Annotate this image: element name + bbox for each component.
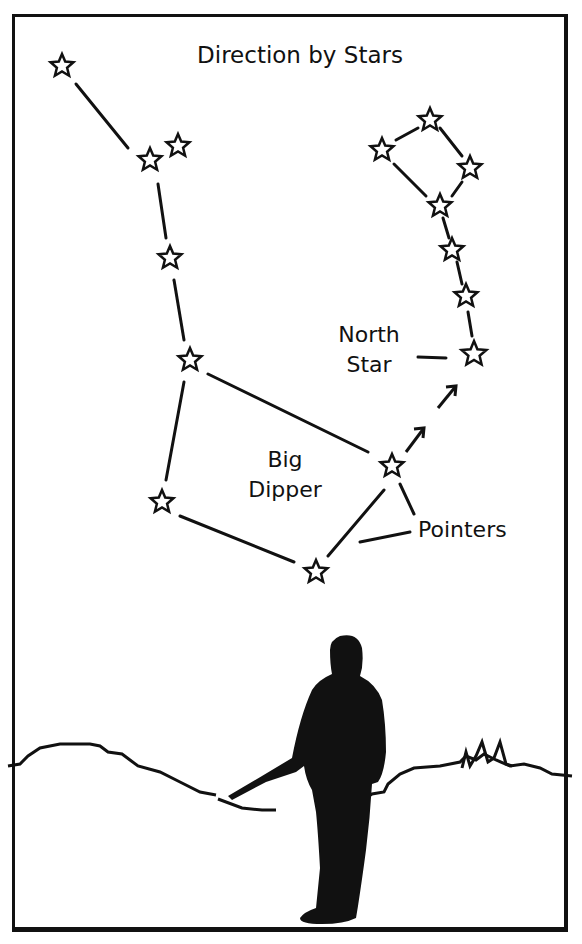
star-chart [0, 0, 582, 944]
constellation-lines [76, 84, 472, 562]
big-dipper-line [166, 382, 184, 480]
big-dipper-line [76, 84, 128, 148]
little-dipper-line [452, 182, 462, 196]
little-dipper-line [394, 164, 426, 196]
landscape [8, 635, 572, 924]
north-star-leader-line [418, 357, 446, 358]
horizon-line [8, 744, 216, 795]
treeline-icon [462, 742, 512, 768]
little-dipper-star-icon [459, 156, 482, 178]
big-dipper-star-icon [159, 246, 182, 268]
little-dipper-star-icon [371, 138, 394, 160]
little-dipper-star-icon [462, 341, 487, 365]
hunter-silhouette-icon [228, 635, 386, 924]
pointers-lower-leader-line [360, 532, 410, 542]
little-dipper-line [457, 262, 462, 284]
big-dipper-star-icon [139, 148, 162, 170]
horizon-line-right [218, 754, 572, 810]
big-dipper-line [174, 280, 184, 340]
pointer-arrow-icon [406, 428, 424, 452]
pointers-upper-leader-line [400, 484, 414, 514]
big-dipper-line [158, 184, 166, 238]
big-dipper-line [208, 374, 368, 452]
little-dipper-line [468, 312, 472, 336]
big-dipper-star-icon [305, 560, 328, 582]
pointer-arrow-icon [438, 386, 456, 408]
little-dipper-star-icon [455, 284, 478, 306]
big-dipper-star-icon [381, 454, 404, 476]
big-dipper-star-icon [151, 490, 174, 512]
little-dipper-line [396, 128, 418, 140]
big-dipper-star-icon [167, 134, 190, 156]
little-dipper-line [440, 128, 462, 156]
big-dipper-line [180, 516, 294, 562]
pointer-arrows [406, 386, 456, 452]
big-dipper-line [328, 490, 384, 556]
little-dipper-line [443, 218, 449, 238]
big-dipper-star-icon [179, 348, 202, 370]
little-dipper-star-icon [419, 108, 442, 130]
little-dipper-star-icon [429, 194, 452, 216]
little-dipper-star-icon [441, 238, 464, 260]
big-dipper-star-icon [51, 54, 74, 76]
